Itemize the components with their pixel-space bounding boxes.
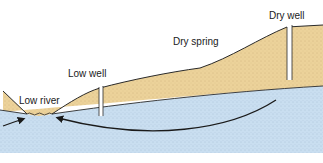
dry-well-label: Dry well xyxy=(269,11,305,21)
low-river-label: Low river xyxy=(19,96,60,106)
groundwater-cross-section xyxy=(0,0,323,163)
low-well-label: Low well xyxy=(68,69,106,79)
dry-well xyxy=(287,25,292,80)
dry-spring-label: Dry spring xyxy=(173,37,219,47)
low-well xyxy=(99,86,103,116)
